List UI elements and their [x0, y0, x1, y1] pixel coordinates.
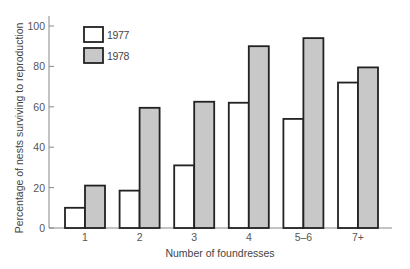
legend-swatch-1978: [84, 48, 103, 63]
bar-1978: [303, 38, 323, 228]
y-tick-label: 20: [33, 182, 45, 194]
bar-group-2: [120, 108, 160, 228]
y-tick-label: 0: [39, 222, 45, 234]
bar-1977: [338, 83, 358, 228]
y-axis-title: Percentage of nests surviving to reprodu…: [13, 22, 25, 233]
bar-1977: [283, 119, 303, 228]
legend: 19771978: [84, 27, 130, 63]
x-tick-label: 5–6: [295, 231, 313, 243]
bar-group-3: [174, 102, 214, 228]
y-axis: 020406080100: [27, 16, 54, 234]
bar-1978: [194, 102, 214, 228]
x-axis-title: Number of foundresses: [165, 247, 274, 259]
bar-1978: [85, 186, 105, 228]
y-tick-label: 80: [33, 60, 45, 72]
legend-label-1977: 1977: [107, 29, 130, 41]
x-tick-label: 2: [137, 231, 143, 243]
x-tick-label: 3: [191, 231, 197, 243]
bar-group-4: [229, 46, 269, 228]
x-tick-label: 4: [246, 231, 252, 243]
bar-1977: [174, 165, 194, 228]
y-tick-label: 40: [33, 141, 45, 153]
y-tick-label: 100: [27, 20, 45, 32]
legend-swatch-1977: [84, 27, 103, 42]
bar-chart: 020406080100 12345–67+ 19771978 Number o…: [0, 0, 410, 269]
bar-1978: [249, 46, 269, 228]
x-tick-label: 7+: [352, 231, 364, 243]
bar-1977: [65, 208, 85, 228]
y-tick-label: 60: [33, 101, 45, 113]
bar-1978: [358, 67, 378, 228]
bars: [65, 38, 378, 228]
bar-1977: [229, 103, 249, 228]
bar-group-5: [283, 38, 323, 228]
legend-label-1978: 1978: [107, 50, 130, 62]
bar-1977: [120, 191, 140, 228]
x-axis: 12345–67+: [49, 228, 392, 243]
x-tick-label: 1: [82, 231, 88, 243]
bar-1978: [140, 108, 160, 228]
bar-group-1: [65, 186, 105, 228]
bar-group-6: [338, 67, 378, 228]
